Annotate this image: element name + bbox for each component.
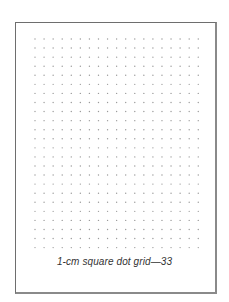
grid-dot	[170, 147, 171, 148]
grid-dot	[198, 138, 199, 139]
grid-dot	[107, 156, 108, 157]
grid-dot	[170, 174, 171, 175]
grid-dot	[134, 75, 135, 76]
grid-dot	[125, 183, 126, 184]
grid-dot	[116, 238, 117, 239]
grid-dot	[179, 47, 180, 48]
grid-dot	[179, 138, 180, 139]
grid-dot	[52, 238, 53, 239]
grid-dot	[143, 84, 144, 85]
grid-dot	[98, 120, 99, 121]
grid-dot	[179, 147, 180, 148]
grid-dot	[161, 247, 162, 248]
grid-dot	[125, 165, 126, 166]
grid-dot	[161, 66, 162, 67]
grid-dot	[188, 220, 189, 221]
grid-dot	[43, 84, 44, 85]
grid-dot	[80, 247, 81, 248]
grid-dot	[143, 147, 144, 148]
grid-dot	[161, 165, 162, 166]
grid-dot	[107, 66, 108, 67]
grid-dot	[43, 165, 44, 166]
grid-dot	[62, 229, 63, 230]
grid-dot	[89, 229, 90, 230]
grid-dot	[161, 183, 162, 184]
grid-dot	[125, 220, 126, 221]
grid-dot	[43, 129, 44, 130]
grid-dot	[134, 129, 135, 130]
grid-dot	[71, 238, 72, 239]
grid-dot	[62, 38, 63, 39]
grid-dot	[107, 47, 108, 48]
grid-dot	[71, 156, 72, 157]
grid-dot	[89, 84, 90, 85]
grid-dot	[71, 111, 72, 112]
grid-dot	[98, 138, 99, 139]
grid-dot	[188, 38, 189, 39]
grid-dot	[98, 56, 99, 57]
grid-dot	[80, 102, 81, 103]
grid-dot	[188, 111, 189, 112]
grid-dot	[152, 174, 153, 175]
grid-dot	[198, 93, 199, 94]
grid-dot	[143, 183, 144, 184]
grid-dot	[89, 192, 90, 193]
grid-dot	[34, 156, 35, 157]
grid-dot	[80, 84, 81, 85]
grid-dot	[89, 202, 90, 203]
grid-dot	[188, 56, 189, 57]
grid-dot	[125, 238, 126, 239]
grid-dot	[152, 56, 153, 57]
grid-dot	[107, 147, 108, 148]
grid-dot	[125, 247, 126, 248]
grid-dot	[107, 38, 108, 39]
grid-dot	[80, 183, 81, 184]
grid-dot	[134, 156, 135, 157]
grid-dot	[34, 238, 35, 239]
grid-dot	[80, 229, 81, 230]
grid-dot	[107, 183, 108, 184]
grid-dot	[152, 75, 153, 76]
grid-dot	[34, 183, 35, 184]
grid-dot	[98, 47, 99, 48]
grid-dot	[98, 75, 99, 76]
grid-dot	[89, 38, 90, 39]
grid-dot	[125, 202, 126, 203]
grid-dot	[179, 174, 180, 175]
grid-dot	[43, 102, 44, 103]
grid-dot	[161, 93, 162, 94]
grid-dot	[152, 102, 153, 103]
grid-dot	[62, 47, 63, 48]
grid-dot	[107, 211, 108, 212]
grid-dot	[116, 220, 117, 221]
grid-dot	[62, 75, 63, 76]
grid-dot	[107, 56, 108, 57]
grid-dot	[198, 102, 199, 103]
grid-dot	[98, 220, 99, 221]
grid-dot	[52, 156, 53, 157]
grid-dot	[62, 129, 63, 130]
grid-dot	[188, 75, 189, 76]
grid-dot	[98, 84, 99, 85]
grid-dot	[89, 47, 90, 48]
grid-dot	[34, 66, 35, 67]
grid-dot	[152, 147, 153, 148]
grid-dot	[34, 102, 35, 103]
grid-dot	[62, 183, 63, 184]
grid-dot	[52, 75, 53, 76]
grid-dot	[52, 120, 53, 121]
grid-dot	[34, 229, 35, 230]
grid-dot	[125, 229, 126, 230]
grid-dot	[62, 192, 63, 193]
grid-dot	[34, 147, 35, 148]
grid-dot	[188, 84, 189, 85]
grid-dot	[188, 174, 189, 175]
grid-dot	[188, 138, 189, 139]
grid-dot	[89, 111, 90, 112]
grid-dot	[52, 202, 53, 203]
grid-dot	[179, 211, 180, 212]
grid-dot	[62, 202, 63, 203]
grid-dot	[43, 183, 44, 184]
grid-dot	[161, 111, 162, 112]
grid-dot	[143, 75, 144, 76]
